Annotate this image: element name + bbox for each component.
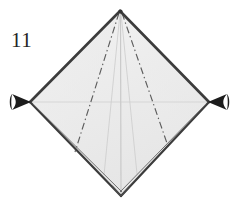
origami-figure: 11 bbox=[0, 0, 245, 209]
paper-body-group bbox=[30, 11, 209, 196]
figure-number-label: 11 bbox=[11, 30, 32, 51]
push-arrow-right-tail bbox=[227, 94, 229, 110]
push-arrow-left-tail bbox=[10, 94, 12, 110]
crease-center-vertical bbox=[121, 12, 122, 195]
origami-diagram-svg bbox=[0, 0, 245, 209]
push-arrow-left bbox=[10, 94, 31, 110]
push-arrow-right-head bbox=[208, 94, 227, 110]
push-arrow-left-head bbox=[12, 94, 31, 110]
apex-point bbox=[118, 9, 122, 13]
push-arrow-right bbox=[208, 94, 229, 110]
